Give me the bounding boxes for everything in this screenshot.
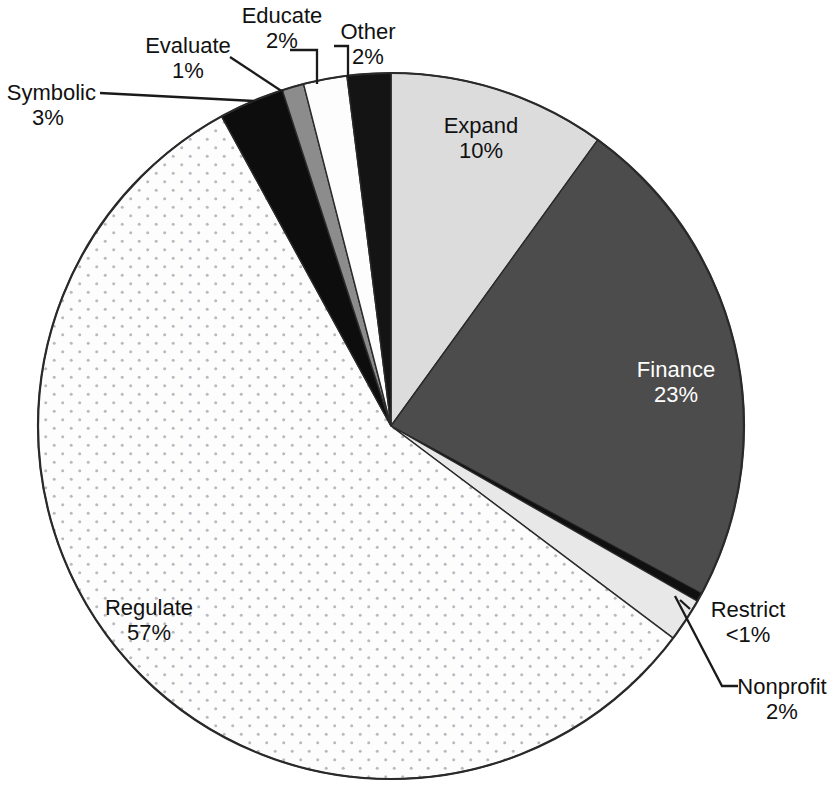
slice-label-educate-pct: 2% — [236, 28, 328, 53]
slice-label-symbolic: Symbolic 3% — [0, 80, 96, 130]
slice-label-finance-pct: 23% — [626, 382, 726, 407]
leader-line-educate — [290, 50, 317, 84]
slice-label-expand-pct: 10% — [430, 138, 532, 163]
slice-label-restrict-pct: <1% — [700, 622, 796, 647]
slice-label-restrict: Restrict <1% — [700, 597, 796, 647]
slice-label-other-name: Other — [334, 19, 402, 44]
slice-label-finance-name: Finance — [626, 357, 726, 382]
slice-label-finance: Finance 23% — [626, 357, 726, 407]
slice-label-evaluate-pct: 1% — [142, 58, 234, 83]
slice-label-nonprofit-pct: 2% — [726, 699, 838, 724]
leader-line-evaluate — [230, 57, 283, 92]
slice-label-educate-name: Educate — [236, 3, 328, 28]
slice-label-symbolic-name: Symbolic — [0, 80, 96, 105]
slice-label-other-pct: 2% — [334, 44, 402, 69]
slice-label-nonprofit: Nonprofit 2% — [726, 674, 838, 724]
slice-label-restrict-name: Restrict — [700, 597, 796, 622]
pie-chart-figure: Symbolic 3% Evaluate 1% Educate 2% Other… — [0, 0, 839, 786]
slice-label-regulate-name: Regulate — [95, 595, 203, 620]
slice-label-evaluate-name: Evaluate — [142, 33, 234, 58]
slice-label-nonprofit-name: Nonprofit — [726, 674, 838, 699]
pie-slices-group — [38, 73, 744, 779]
slice-label-educate: Educate 2% — [236, 3, 328, 53]
leader-line-symbolic — [100, 93, 254, 101]
slice-label-regulate-pct: 57% — [95, 620, 203, 645]
slice-label-expand-name: Expand — [430, 113, 532, 138]
slice-label-regulate: Regulate 57% — [95, 595, 203, 645]
slice-label-expand: Expand 10% — [430, 113, 532, 163]
slice-label-evaluate: Evaluate 1% — [142, 33, 234, 83]
slice-label-other: Other 2% — [334, 19, 402, 69]
slice-label-symbolic-pct: 3% — [0, 105, 96, 130]
